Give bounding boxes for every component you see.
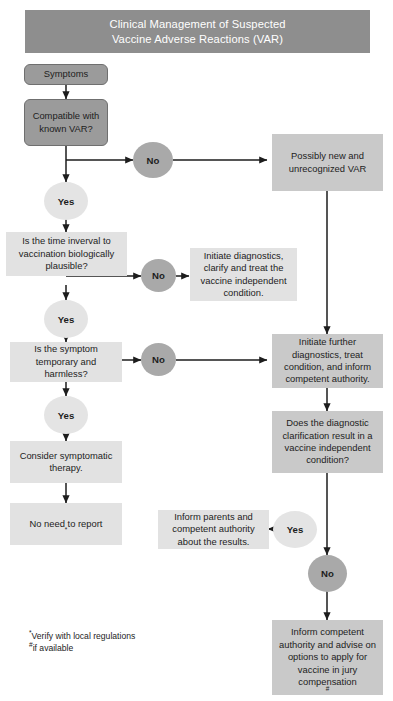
footnote-2: #if available [29, 643, 209, 655]
node-initiate-further-diagnostics: Initiate further diagnostics, treat cond… [272, 334, 383, 388]
title-line-1: Clinical Management of Suspected [109, 17, 285, 32]
node-symptom-temporary-harmless: Is the symptom temporary and harmless? [10, 342, 122, 382]
decision-no-3: No [141, 343, 176, 376]
decision-yes-4: Yes [273, 511, 317, 548]
node-inform-competent-authority-compensation: Inform competent authority and advise on… [272, 620, 383, 695]
node-symptoms: Symptoms [24, 64, 108, 85]
node-initiate-diagnostics: Initiate diagnostics, clarify and treat … [190, 248, 297, 301]
flowchart-canvas: Clinical Management of Suspected Vaccine… [0, 0, 393, 701]
node-possibly-new-unrecognized-var: Possibly new and unrecognized VAR [272, 134, 383, 191]
decision-yes-1: Yes [44, 182, 88, 220]
node-does-diagnostic-clarification: Does the diagnostic clarification result… [272, 411, 383, 473]
title-line-2: Vaccine Adverse Reactions (VAR) [112, 32, 283, 47]
decision-no-4: No [308, 555, 347, 592]
page-title: Clinical Management of Suspected Vaccine… [25, 10, 370, 53]
node-inform-parents-competent-authority: Inform parents and competent authority a… [158, 510, 269, 549]
node-time-interval-plausible: Is the time inverval to vaccination biol… [6, 232, 127, 276]
decision-yes-3: Yes [44, 396, 88, 434]
footnotes: *Verify with local regulations #if avail… [29, 631, 209, 654]
decision-no-2: No [141, 259, 176, 292]
node-no-need-to-report: No need to report* [10, 503, 122, 545]
footnote-1: *Verify with local regulations [29, 631, 209, 643]
node-compatible-with-known-var: Compatible with known VAR? [24, 99, 108, 146]
decision-yes-2: Yes [44, 300, 88, 338]
decision-no-1: No [133, 142, 173, 178]
node-consider-symptomatic-therapy: Consider symptomatic therapy. [10, 441, 122, 483]
